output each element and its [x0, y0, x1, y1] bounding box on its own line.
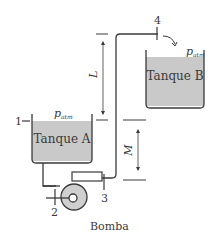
pump-label: Bomba — [90, 220, 129, 233]
tank-a: Tanque A patm 1 — [15, 107, 92, 163]
outflow-arrow-icon — [163, 36, 175, 44]
pump-impeller — [69, 194, 77, 202]
tank-b-pressure: patm — [186, 45, 205, 58]
point-2-label: 2 — [51, 206, 58, 219]
tank-b-label: Tanque B — [146, 69, 203, 83]
tank-a-label: Tanque A — [34, 132, 91, 146]
pump-system-diagram: Tanque B patm Tanque A patm 1 Bomba 2 3 … — [0, 0, 216, 237]
tank-a-pressure: patm — [54, 107, 73, 120]
dimension-L-label: L — [87, 71, 100, 79]
point-4-label: 4 — [154, 14, 161, 27]
dimension-M-label: M — [122, 144, 135, 157]
pump-outlet — [72, 172, 102, 181]
point-1-label: 1 — [15, 115, 22, 128]
pump: Bomba — [43, 172, 129, 233]
tank-b: Tanque B patm — [146, 45, 205, 108]
point-3-label: 3 — [101, 192, 108, 205]
suction-pipe — [43, 163, 56, 186]
